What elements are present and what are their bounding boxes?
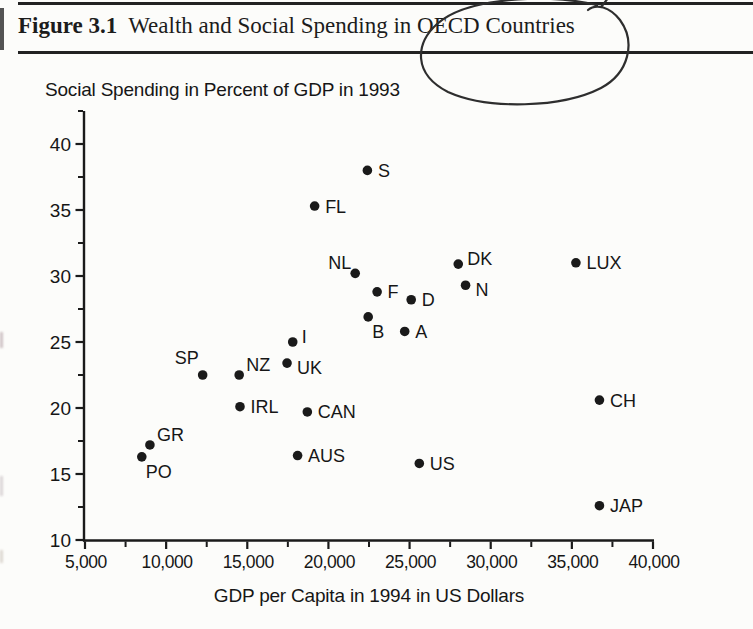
data-point-uk (282, 358, 292, 368)
scan-gutter-shadow (0, 8, 4, 50)
y-tick-label: 10 (50, 530, 71, 551)
data-point-label-lux: LUX (586, 253, 621, 273)
data-point-nl (350, 269, 360, 279)
data-point-label-jap: JAP (610, 496, 643, 516)
x-tick-label: 30,000 (466, 552, 518, 572)
data-point-label-s: S (378, 161, 390, 181)
y-tick-label: 15 (50, 464, 71, 485)
data-point-lux (571, 258, 581, 268)
scan-smudge (0, 476, 3, 496)
figure-title: Wealth and Social Spending in OECD Count… (128, 13, 575, 38)
data-point-label-uk: UK (297, 358, 322, 378)
data-point-irl (235, 402, 245, 412)
data-point-aus (293, 451, 303, 461)
data-point-label-gr: GR (157, 425, 184, 445)
data-point-sp (198, 370, 208, 380)
x-tick-label: 5,000 (65, 552, 107, 572)
x-tick-label: 35,000 (547, 552, 599, 572)
header-top-rule (18, 2, 753, 5)
data-point-label-a: A (415, 322, 427, 342)
data-point-b (363, 312, 373, 322)
scanned-book-page: Figure 3.1Wealth and Social Spending in … (0, 0, 753, 629)
chart-title: Social Spending in Percent of GDP in 199… (45, 79, 400, 101)
scan-smudge (0, 550, 3, 563)
data-point-label-dk: DK (467, 249, 492, 269)
data-point-d (406, 295, 416, 305)
data-point-label-us: US (430, 454, 455, 474)
y-tick-label: 40 (50, 134, 71, 155)
figure-number: Figure 3.1 (18, 13, 117, 38)
data-point-label-sp: SP (175, 348, 199, 368)
data-point-dk (453, 259, 463, 269)
data-point-s (363, 166, 373, 176)
scan-smudge (0, 332, 3, 348)
data-point-ch (595, 395, 605, 405)
y-tick-label: 20 (50, 398, 71, 419)
data-point-jap (595, 501, 605, 511)
data-point-n (461, 280, 471, 290)
y-tick-label: 30 (50, 266, 71, 287)
y-tick-label: 35 (50, 200, 71, 221)
header-bottom-rule (18, 51, 753, 54)
data-point-nz (234, 370, 244, 380)
data-point-us (415, 459, 425, 469)
data-point-label-d: D (422, 290, 435, 310)
data-point-a (400, 327, 410, 337)
data-point-po (137, 452, 147, 462)
data-point-label-can: CAN (318, 402, 356, 422)
data-point-label-i: I (302, 327, 307, 347)
data-point-label-f: F (388, 282, 399, 302)
data-point-label-nl: NL (328, 253, 351, 273)
data-point-label-nz: NZ (246, 355, 270, 375)
data-point-label-irl: IRL (250, 397, 278, 417)
data-point-can (303, 407, 313, 417)
data-point-label-ch: CH (610, 391, 636, 411)
x-tick-label: 10,000 (142, 552, 194, 572)
x-tick-label: 40,000 (628, 552, 680, 572)
x-tick-label: 15,000 (223, 552, 275, 572)
y-tick-label: 25 (50, 332, 71, 353)
data-point-label-aus: AUS (308, 446, 345, 466)
x-axis-title: GDP per Capita in 1994 in US Dollars (214, 585, 524, 606)
data-point-label-n: N (476, 280, 489, 300)
x-tick-label: 25,000 (385, 552, 437, 572)
data-point-f (372, 287, 382, 297)
data-point-i (288, 337, 298, 347)
data-point-gr (145, 440, 155, 450)
data-point-label-po: PO (146, 462, 172, 482)
data-point-fl (310, 201, 320, 211)
data-point-label-b: B (372, 322, 384, 342)
data-point-label-fl: FL (325, 197, 346, 217)
x-tick-label: 20,000 (304, 552, 356, 572)
